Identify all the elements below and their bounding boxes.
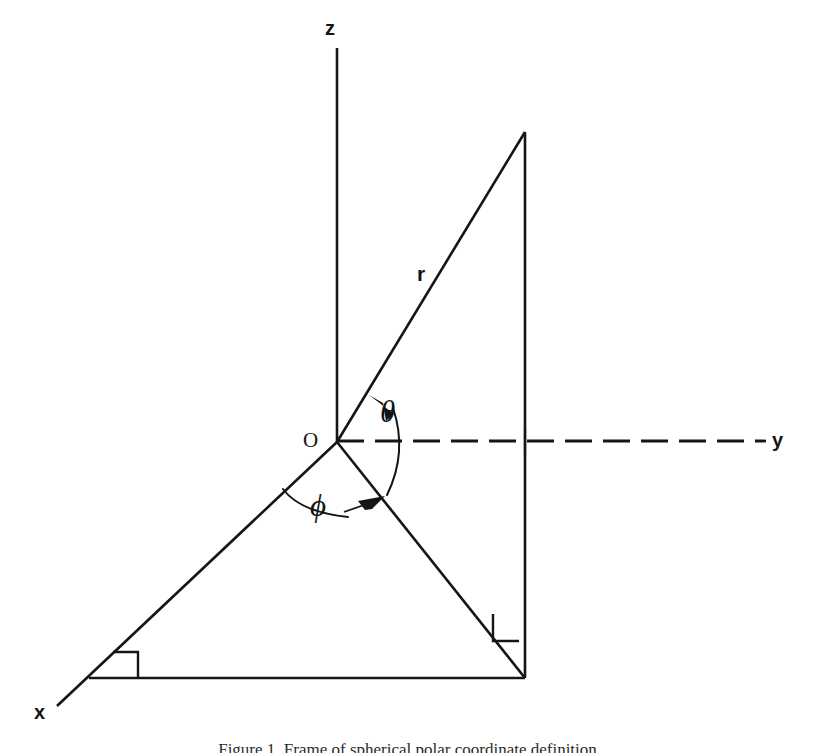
spherical-coordinate-diagram xyxy=(0,0,815,753)
radius-label: r xyxy=(417,263,425,284)
right-angle-marker-bottom-right xyxy=(493,614,519,641)
radius-line xyxy=(337,132,525,442)
origin-label: O xyxy=(303,430,318,451)
z-axis-label: z xyxy=(325,18,335,38)
projection-line xyxy=(337,442,525,678)
right-angle-marker-bottom-left xyxy=(113,652,138,678)
phi-pointer-stem xyxy=(344,505,364,512)
x-axis-line xyxy=(57,442,337,706)
figure-caption: Figure 1. Frame of spherical polar coord… xyxy=(0,741,815,753)
theta-label: θ xyxy=(380,396,395,427)
y-axis-label: y xyxy=(772,430,783,450)
x-axis-label: x xyxy=(34,702,45,722)
phi-arrowhead xyxy=(358,496,385,510)
figure-root: z y x O r θ ϕ Figure 1. Frame of spheric… xyxy=(0,0,815,753)
phi-label: ϕ xyxy=(310,490,326,521)
